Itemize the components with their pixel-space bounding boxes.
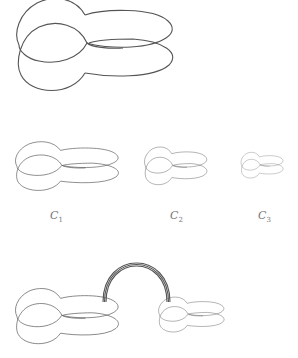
connected-right-surface [159,297,225,332]
connecting-tube [103,263,170,302]
large-surface-figure [17,0,173,90]
surface-c1 [15,142,118,191]
surface-c2 [145,147,207,185]
diagram-canvas [0,0,298,358]
label-c3: C3 [258,209,271,224]
surface-c3 [241,152,283,178]
label-c1: C1 [50,209,63,224]
label-c2: C2 [170,209,183,224]
